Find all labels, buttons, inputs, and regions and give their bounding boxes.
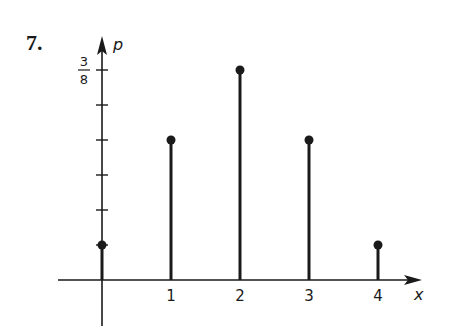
stem-dot [236,66,245,75]
stem-dot [167,136,176,145]
x-tick-label: 4 [373,287,383,305]
y-axis-label: p [112,35,123,54]
stem-dot [305,136,314,145]
y-tick-label-numerator: 3 [80,54,88,69]
x-tick-label: 2 [235,287,245,305]
x-axis-label: x [413,285,424,304]
stem-dot [98,241,107,250]
x-tick-label: 3 [304,287,314,305]
y-tick-label-denominator: 8 [80,72,88,87]
x-tick-label: 1 [166,287,176,305]
pmf-stem-chart: 38px1234 [0,0,461,328]
stem-dot [374,241,383,250]
